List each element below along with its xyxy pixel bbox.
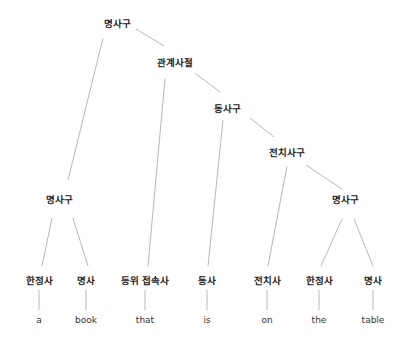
edge-npright-det: [321, 219, 342, 266]
node-relative-clause: 관계사절: [157, 55, 193, 69]
word-on: on: [261, 315, 272, 325]
edge-vp-verb: [208, 120, 223, 266]
tree-edges: [0, 0, 406, 345]
word-table: table: [362, 315, 385, 325]
edge-vp-pp: [250, 118, 274, 137]
edge-relclause-vp: [195, 73, 220, 92]
edge-npleft-det: [42, 218, 52, 266]
edge-root-relclause: [136, 29, 164, 46]
node-np-left: 명사구: [46, 192, 73, 206]
word-a: a: [36, 315, 42, 325]
edge-npleft-noun: [73, 218, 88, 266]
edge-relclause-conj: [148, 79, 165, 266]
node-vp: 동사구: [214, 101, 241, 115]
edge-npright-noun: [354, 219, 373, 266]
pos-noun-1: 명사: [77, 273, 95, 287]
word-is: is: [203, 315, 210, 325]
edge-pp-prep: [268, 166, 287, 266]
node-np-right: 명사구: [332, 192, 359, 206]
pos-determiner-2: 한정사: [306, 273, 333, 287]
pos-verb: 동사: [198, 273, 216, 287]
pos-preposition: 전치사: [254, 273, 281, 287]
pos-determiner-1: 한정사: [26, 273, 53, 287]
pos-noun-2: 명사: [364, 273, 382, 287]
pos-conjunction: 등위 접속사: [121, 273, 169, 287]
node-np-root: 명사구: [104, 16, 131, 30]
word-that: that: [136, 315, 154, 325]
edge-root-np-left: [68, 38, 103, 180]
node-pp: 전치사구: [269, 145, 305, 159]
edge-pp-np-right: [306, 165, 342, 189]
word-book: book: [75, 315, 97, 325]
word-the: the: [312, 315, 327, 325]
